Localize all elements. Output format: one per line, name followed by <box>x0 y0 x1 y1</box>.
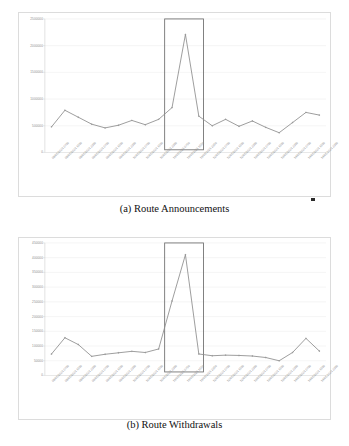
scan-artifact-mark <box>311 198 315 201</box>
figure-panel-a: 05000001000000150000020000002500000 08/0… <box>0 0 349 223</box>
chart-b-plot <box>19 238 330 419</box>
figure-container: 05000001000000150000020000002500000 08/0… <box>0 0 349 446</box>
caption-panel-b: (b) Route Withdrawals <box>0 419 349 430</box>
chart-b-frame: 0500001000001500002000002500003000003500… <box>18 237 331 420</box>
chart-a-frame: 05000001000000150000020000002500000 08/0… <box>18 12 331 197</box>
caption-panel-a: (a) Route Announcements <box>0 203 349 214</box>
chart-a-plot <box>19 13 330 196</box>
figure-panel-b: 0500001000001500002000002500003000003500… <box>0 223 349 446</box>
